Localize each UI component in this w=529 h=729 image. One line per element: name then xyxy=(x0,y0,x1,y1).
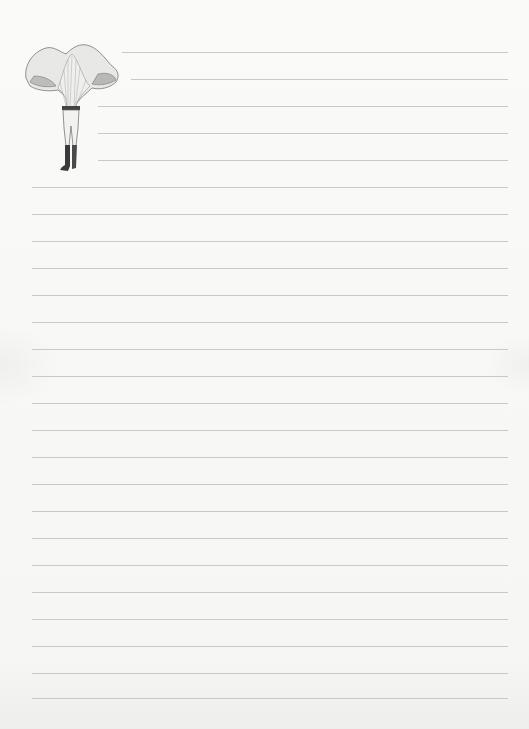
mushroom-figure-illustration xyxy=(22,38,122,178)
writing-line xyxy=(131,79,508,80)
writing-line xyxy=(98,106,508,107)
writing-line xyxy=(32,349,508,350)
writing-line xyxy=(32,619,508,620)
writing-line xyxy=(32,673,508,674)
writing-line xyxy=(32,403,508,404)
writing-line xyxy=(32,241,508,242)
writing-line xyxy=(32,646,508,647)
writing-line xyxy=(122,52,508,53)
writing-line xyxy=(32,484,508,485)
writing-line xyxy=(32,457,508,458)
writing-line xyxy=(32,592,508,593)
lined-paper-page xyxy=(0,0,529,729)
writing-line xyxy=(32,511,508,512)
writing-line xyxy=(98,133,508,134)
writing-line xyxy=(32,268,508,269)
writing-line xyxy=(32,295,508,296)
writing-line xyxy=(32,698,508,699)
writing-line xyxy=(32,565,508,566)
writing-line xyxy=(32,187,508,188)
writing-line xyxy=(32,430,508,431)
writing-line xyxy=(32,538,508,539)
writing-line xyxy=(98,160,508,161)
writing-line xyxy=(32,322,508,323)
writing-line xyxy=(32,376,508,377)
writing-line xyxy=(32,214,508,215)
